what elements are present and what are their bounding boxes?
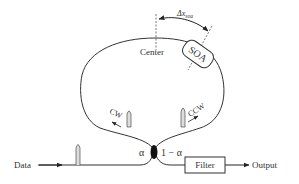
ccw-pulse <box>181 108 185 127</box>
one-minus-alpha-label: 1 − α <box>161 147 183 158</box>
cw-label: CW <box>108 107 124 121</box>
center-label: Center <box>140 47 164 57</box>
delta-x-label: Δxsoa <box>176 9 193 19</box>
diagram-canvas: SOA Center Δxsoa CW CCW α 1 − α Data Fil… <box>0 0 299 184</box>
output-label: Output <box>252 160 278 170</box>
delta-x-arrow <box>159 18 208 31</box>
cw-arrow <box>112 122 121 127</box>
delta-x-main: Δx <box>176 9 186 18</box>
coupler <box>151 145 158 159</box>
data-pulse <box>76 145 80 166</box>
delta-x-sub: soa <box>185 13 193 19</box>
alpha-label: α <box>139 147 145 158</box>
filter-label: Filter <box>195 160 215 170</box>
input-fiber <box>38 150 154 165</box>
ccw-label: CCW <box>186 101 207 119</box>
soa-box: SOA <box>180 37 217 70</box>
cw-pulse <box>127 111 131 127</box>
data-label: Data <box>14 160 31 170</box>
